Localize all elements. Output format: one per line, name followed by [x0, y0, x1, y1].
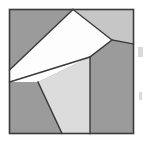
- tangram-figure-svg: [0, 0, 145, 142]
- pieces-group: [10, 10, 134, 134]
- figure-root: [0, 0, 145, 142]
- speck-lower-right: [139, 92, 142, 100]
- speck-upper-right: [138, 47, 143, 57]
